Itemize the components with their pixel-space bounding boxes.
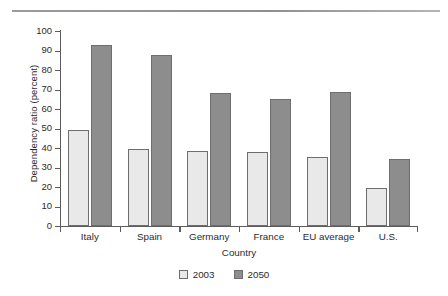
chart-figure: Dependency ratio (percent) 0102030405060… xyxy=(0,0,448,296)
y-tick-label: 0 xyxy=(47,220,52,231)
x-tick-label: Italy xyxy=(60,231,120,242)
x-tick-label: U.S. xyxy=(358,231,418,242)
y-tick-label: 40 xyxy=(41,142,52,153)
bar-group xyxy=(358,31,418,226)
bar-eu-average-2050[interactable] xyxy=(330,92,351,226)
x-axis-tick-labels: ItalySpainGermanyFranceEU averageU.S. xyxy=(60,231,418,242)
bar-group xyxy=(120,31,180,226)
bar-germany-2003[interactable] xyxy=(187,151,208,226)
chart-legend: 20032050 xyxy=(0,269,448,280)
x-tick-label: France xyxy=(239,231,299,242)
y-tick-label: 70 xyxy=(41,83,52,94)
y-tick-label: 10 xyxy=(41,200,52,211)
bar-spain-2050[interactable] xyxy=(151,55,172,226)
bar-eu-average-2003[interactable] xyxy=(307,157,328,226)
y-tick-label: 30 xyxy=(41,161,52,172)
bar-u-s--2050[interactable] xyxy=(389,159,410,226)
bar-group xyxy=(60,31,120,226)
bar-france-2050[interactable] xyxy=(270,99,291,226)
y-tick-label: 100 xyxy=(36,25,52,36)
bar-spain-2003[interactable] xyxy=(128,149,149,226)
bar-italy-2003[interactable] xyxy=(68,130,89,226)
y-tick-label: 80 xyxy=(41,64,52,75)
legend-entry-2050[interactable]: 2050 xyxy=(234,269,270,280)
top-divider-rule xyxy=(12,10,440,12)
legend-swatch-2050 xyxy=(234,270,243,279)
legend-swatch-2003 xyxy=(179,270,188,279)
plot-area: 0102030405060708090100 xyxy=(60,31,418,226)
bar-group xyxy=(179,31,239,226)
bar-italy-2050[interactable] xyxy=(91,45,112,226)
bar-group xyxy=(239,31,299,226)
y-axis-title: Dependency ratio (percent) xyxy=(28,24,39,224)
bar-germany-2050[interactable] xyxy=(210,93,231,226)
legend-entry-2003[interactable]: 2003 xyxy=(179,269,215,280)
x-tick-label: Spain xyxy=(120,231,180,242)
bar-group xyxy=(299,31,359,226)
y-tick-label: 20 xyxy=(41,181,52,192)
y-tick-label: 90 xyxy=(41,44,52,55)
x-tick-label: EU average xyxy=(299,231,359,242)
bar-u-s--2003[interactable] xyxy=(366,188,387,226)
y-tick-label: 60 xyxy=(41,103,52,114)
y-tick-label: 50 xyxy=(41,122,52,133)
x-tick-label: Germany xyxy=(179,231,239,242)
x-axis-title: Country xyxy=(60,247,418,258)
legend-label-2003: 2003 xyxy=(193,269,215,280)
bar-france-2003[interactable] xyxy=(247,152,268,226)
legend-label-2050: 2050 xyxy=(248,269,270,280)
bar-groups xyxy=(60,31,418,226)
